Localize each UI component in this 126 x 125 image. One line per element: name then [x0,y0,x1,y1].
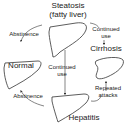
cirrhosis-title: Cirrhosis [88,45,124,53]
repeated-attacks-label-1: Repeated [91,85,125,91]
normal-title: Normal [6,62,36,70]
cirrhosis-liver-shape [95,57,123,78]
liver-disease-diagram: Steatosis (fatty liver) Abstinence Conti… [0,0,126,125]
hepatitis-title: Hepatitis [66,114,102,122]
steatosis-subtitle: (fatty liver) [46,11,90,19]
continued-use-label-right-1: Continued [89,26,123,32]
steatosis-liver-shape [49,23,86,57]
continued-use-label-right-2: use [96,33,116,39]
repeated-attacks-label-2: attacks [94,92,122,98]
abstinence-label-top: Abstinence [8,31,40,37]
steatosis-title: Steatosis [49,2,87,10]
abstinence-label-bottom: Abstinence [11,93,45,99]
continued-use-label-center-2: use [52,71,72,77]
continued-use-label-center-1: Continued [46,64,78,70]
